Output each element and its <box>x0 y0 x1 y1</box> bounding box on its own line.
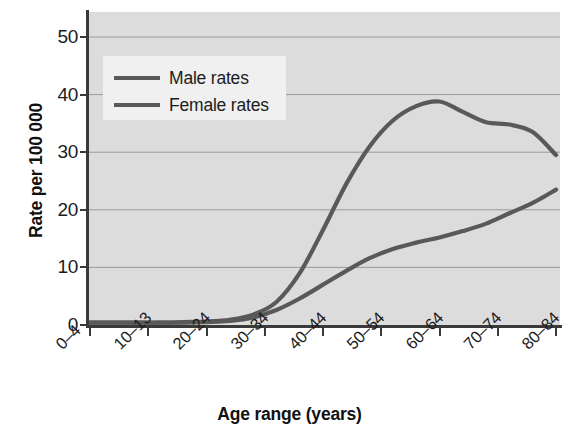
legend-item: Male rates <box>114 65 249 91</box>
y-tick: 50 <box>22 26 78 46</box>
y-tick-mark <box>80 94 87 96</box>
chart-legend: Male ratesFemale rates <box>103 56 286 120</box>
y-tick-label: 50 <box>22 26 78 48</box>
x-axis-title: Age range (years) <box>0 404 579 425</box>
legend-line-swatch <box>114 103 160 108</box>
y-tick-mark <box>80 266 87 268</box>
male-rates-curve <box>90 101 556 322</box>
y-axis-title: Rate per 100 000 <box>26 51 47 291</box>
legend-line-swatch <box>114 76 160 81</box>
y-tick-mark <box>80 151 87 153</box>
data-curves <box>90 101 556 322</box>
legend-label: Male rates <box>169 68 249 89</box>
y-axis-line <box>86 10 89 327</box>
chart-page: 01020304050 Rate per 100 000 0–410–1320–… <box>0 0 579 439</box>
x-tick-mark <box>89 327 91 336</box>
legend-label: Female rates <box>169 95 269 116</box>
y-tick-mark <box>80 209 87 211</box>
y-tick-mark <box>80 324 87 326</box>
legend-item: Female rates <box>114 92 269 118</box>
y-tick-mark <box>80 36 87 38</box>
